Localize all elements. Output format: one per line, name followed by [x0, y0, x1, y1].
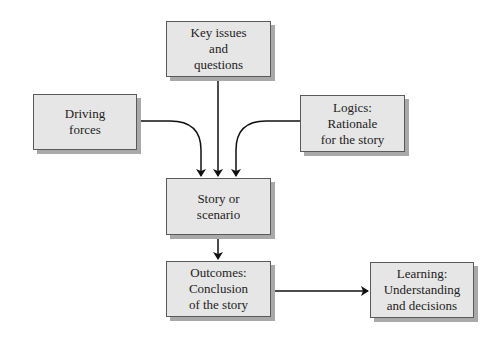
node-story-line-2: scenario	[197, 207, 240, 223]
node-story-line-1: Story or	[197, 191, 240, 207]
node-driving-forces: Driving forces	[33, 94, 137, 150]
node-outcomes-line-2: Conclusion	[189, 281, 248, 297]
node-story: Story or scenario	[166, 178, 271, 235]
node-outcomes-line-3: of the story	[189, 297, 248, 313]
node-key-issues-line-2: and	[191, 41, 247, 57]
node-key-issues: Key issues and questions	[166, 21, 271, 77]
node-outcomes: Outcomes: Conclusion of the story	[166, 261, 271, 317]
node-key-issues-line-1: Key issues	[191, 25, 247, 41]
node-driving-forces-line-1: Driving	[65, 106, 105, 122]
arrow-driving-forces-to-story	[137, 121, 201, 176]
node-learning: Learning: Understanding and decisions	[370, 262, 474, 318]
node-key-issues-line-3: questions	[191, 57, 247, 73]
node-learning-line-2: Understanding	[384, 282, 461, 298]
node-learning-line-3: and decisions	[384, 298, 461, 314]
node-outcomes-line-1: Outcomes:	[189, 265, 248, 281]
node-logics-line-3: for the story	[321, 132, 385, 148]
node-logics-line-2: Rationale	[321, 116, 385, 132]
node-driving-forces-line-2: forces	[65, 122, 105, 138]
arrow-logics-to-story	[236, 121, 300, 176]
node-learning-line-1: Learning:	[384, 266, 461, 282]
node-logics: Logics: Rationale for the story	[300, 95, 405, 152]
node-logics-line-1: Logics:	[321, 100, 385, 116]
